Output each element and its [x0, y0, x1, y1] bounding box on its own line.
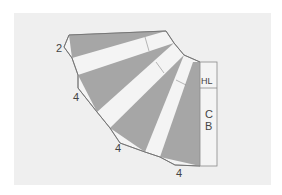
dim-label-2: 2	[56, 42, 62, 54]
dim-label-bottom-left-4: 4	[115, 142, 121, 154]
dim-label-bottom-right-4: 4	[176, 167, 182, 179]
fan-diagram: 2 4 4 4 HL C B	[0, 0, 282, 195]
cb-label-c: C	[205, 108, 213, 120]
dim-label-left-4: 4	[73, 91, 79, 103]
hl-label: HL	[201, 76, 213, 86]
cb-label-b: B	[205, 120, 212, 132]
